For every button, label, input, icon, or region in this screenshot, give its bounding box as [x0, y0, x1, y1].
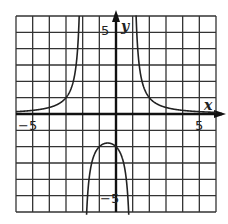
y-tick-neg5: −5 [100, 191, 119, 206]
x-tick-5: 5 [195, 118, 203, 133]
x-tick-neg5: −5 [18, 118, 37, 133]
graph: −5 5 5 −5 y x [0, 0, 228, 224]
y-axis-label: y [120, 18, 130, 34]
y-tick-5: 5 [101, 23, 109, 38]
x-axis-label: x [203, 97, 213, 113]
